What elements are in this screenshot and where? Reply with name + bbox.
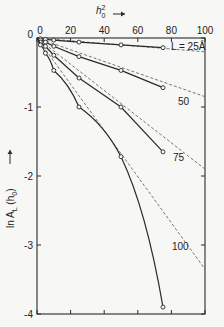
data-point-marker xyxy=(77,76,81,80)
curve-label: 100 xyxy=(172,241,189,252)
x-tick-label: 80 xyxy=(166,25,178,36)
data-point-marker xyxy=(119,43,123,47)
x-tick-label: 60 xyxy=(132,25,144,36)
data-point-marker xyxy=(161,150,165,154)
y-axis-title: ln AL (h0) xyxy=(5,150,18,228)
curve-label: 50 xyxy=(178,96,190,107)
data-point-marker xyxy=(43,51,47,55)
chart: 0204060801000-1-2-3-4h20ln AL (h0)L = 25… xyxy=(0,0,224,327)
curve-label: 75 xyxy=(173,152,185,163)
x-axis-arrowhead-icon xyxy=(121,12,125,17)
data-point-marker xyxy=(161,86,165,90)
data-point-marker xyxy=(52,68,56,72)
data-point-marker xyxy=(38,43,42,47)
data-point-marker xyxy=(119,155,123,159)
x-axis-title: h20 xyxy=(96,4,106,19)
data-point-marker xyxy=(77,105,81,109)
labels-group: 0204060801000-1-2-3-4h20ln AL (h0)L = 25… xyxy=(5,4,214,320)
data-point-marker xyxy=(52,38,56,42)
data-point-marker xyxy=(52,53,56,57)
x-tick-label: 40 xyxy=(99,25,111,36)
y-tick-label: 0 xyxy=(27,29,33,40)
x-tick-label: 0 xyxy=(37,25,43,36)
y-tick-label: -4 xyxy=(24,309,33,320)
data-point-marker xyxy=(77,55,81,59)
y-tick-label: -1 xyxy=(24,102,33,113)
x-tick-label: 100 xyxy=(197,25,214,36)
series-group xyxy=(37,37,205,309)
x-tick-label: 20 xyxy=(65,25,77,36)
data-point-marker xyxy=(161,305,165,309)
y-tick-label: -2 xyxy=(24,171,33,182)
y-axis-title-text: ln AL (h0) xyxy=(5,188,18,228)
data-point-marker xyxy=(77,40,81,44)
data-point-marker xyxy=(52,44,56,48)
data-point-marker xyxy=(43,40,47,44)
data-point-marker xyxy=(119,68,123,72)
y-axis-arrowhead-icon xyxy=(8,150,13,154)
data-point-marker xyxy=(119,105,123,109)
y-tick-label: -3 xyxy=(24,240,33,251)
data-curve xyxy=(37,38,163,307)
data-point-marker xyxy=(161,46,165,50)
curve-label: L = 25Å xyxy=(171,40,206,52)
